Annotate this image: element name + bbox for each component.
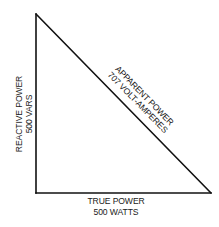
true-power-label: TRUE POWER 500 WATTS	[87, 196, 144, 217]
reactive-power-label: REACTIVE POWER 500 VARS	[14, 76, 34, 152]
reactive-power-title: REACTIVE POWER	[14, 76, 24, 152]
true-power-title: TRUE POWER	[87, 196, 144, 206]
reactive-power-value: 500 VARS	[24, 94, 34, 133]
true-power-value: 500 WATTS	[94, 207, 139, 217]
apparent-power-label: APPARENT POWER 707 VOLT-AMPERES	[106, 63, 177, 135]
apparent-power-title: APPARENT POWER	[113, 64, 175, 127]
power-triangle-diagram: REACTIVE POWER 500 VARS TRUE POWER 500 W…	[0, 0, 219, 227]
apparent-power-side	[36, 14, 211, 193]
apparent-power-value: 707 VOLT-AMPERES	[106, 70, 170, 135]
